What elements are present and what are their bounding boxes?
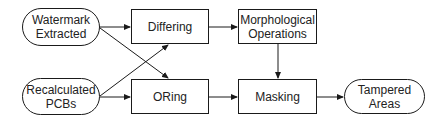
- node-morphological-operations: Morphological Operations: [238, 9, 317, 44]
- node-watermark-extracted: Watermark Extracted: [22, 8, 100, 46]
- flow-diagram: Watermark Extracted Recalculated PCBs Di…: [0, 0, 443, 126]
- node-oring: ORing: [131, 79, 209, 114]
- node-tampered-areas: Tampered Areas: [344, 79, 425, 114]
- node-label: Recalculated PCBs: [26, 83, 95, 111]
- node-label: Tampered Areas: [358, 83, 411, 111]
- node-label: Morphological Operations: [240, 13, 315, 41]
- node-label: Masking: [255, 90, 300, 104]
- node-recalculated-pcbs: Recalculated PCBs: [22, 78, 100, 115]
- node-label: Watermark Extracted: [32, 13, 90, 41]
- node-differing: Differing: [131, 9, 209, 44]
- node-masking: Masking: [238, 79, 317, 114]
- node-label: ORing: [153, 90, 187, 104]
- node-label: Differing: [148, 20, 192, 34]
